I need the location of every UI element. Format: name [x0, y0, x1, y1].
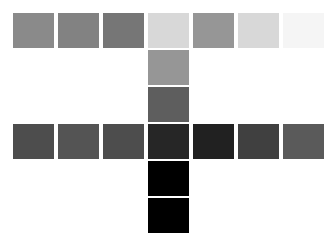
swatch-r1c7 — [282, 12, 325, 49]
swatch-r1c7-fill — [283, 13, 324, 48]
swatch-r4c6 — [237, 123, 280, 160]
swatch-r1c4-fill — [148, 13, 189, 48]
swatch-r1c6 — [237, 12, 280, 49]
swatch-r4c7-fill — [283, 124, 324, 159]
swatch-r1c1-fill — [13, 13, 54, 48]
swatch-r4c2-fill — [58, 124, 99, 159]
swatch-r1c2-fill — [58, 13, 99, 48]
swatch-r1c1 — [12, 12, 55, 49]
swatch-r6c4 — [147, 197, 190, 234]
swatch-r5c4-fill — [148, 161, 189, 196]
swatch-r4c7 — [282, 123, 325, 160]
swatch-r1c4 — [147, 12, 190, 49]
swatch-r4c4 — [147, 123, 190, 160]
swatch-r5c4 — [147, 160, 190, 197]
swatch-r4c1-fill — [13, 124, 54, 159]
swatch-r4c5-fill — [193, 124, 234, 159]
swatch-r4c2 — [57, 123, 100, 160]
swatch-r1c3 — [102, 12, 145, 49]
swatch-r4c3 — [102, 123, 145, 160]
swatch-r4c3-fill — [103, 124, 144, 159]
swatch-r2c4 — [147, 49, 190, 86]
swatch-r1c5-fill — [193, 13, 234, 48]
swatch-r3c4-fill — [148, 87, 189, 122]
swatch-r3c4 — [147, 86, 190, 123]
swatch-r6c4-fill — [148, 198, 189, 233]
swatch-r4c6-fill — [238, 124, 279, 159]
swatch-r4c1 — [12, 123, 55, 160]
swatch-r4c5 — [192, 123, 235, 160]
swatch-r1c3-fill — [103, 13, 144, 48]
swatch-r4c4-fill — [148, 124, 189, 159]
swatch-r1c5 — [192, 12, 235, 49]
swatch-r1c6-fill — [238, 13, 279, 48]
swatch-r1c2 — [57, 12, 100, 49]
swatch-r2c4-fill — [148, 50, 189, 85]
swatch-board — [0, 0, 336, 239]
